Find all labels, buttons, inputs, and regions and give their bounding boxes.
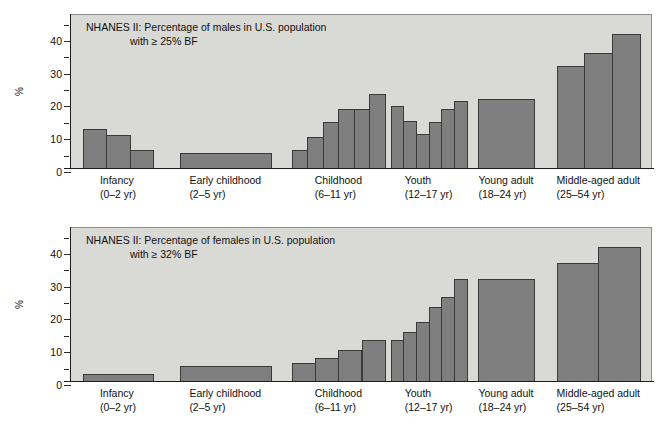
y-tick-mark: [64, 303, 69, 304]
x-axis-category-name: Young adult: [478, 387, 533, 399]
x-axis-category-range: (12–17 yr): [405, 400, 453, 414]
x-axis-category-label: Infancy(0–2 yr): [100, 386, 136, 414]
y-axis-tick-labels-bottom: 010203040: [30, 231, 62, 381]
x-axis-category-label: Early childhood(2–5 yr): [189, 386, 261, 414]
x-axis-category-label: Middle-aged adult(25–54 yr): [557, 173, 640, 201]
x-axis-labels-bottom: Infancy(0–2 yr)Early childhood(2–5 yr)Ch…: [71, 386, 652, 422]
bar: [441, 109, 455, 168]
y-axis-tick-labels-top: 010203040: [30, 18, 62, 168]
bar: [391, 340, 405, 381]
y-tick-mark: [64, 57, 69, 58]
y-tick-mark: [64, 90, 69, 91]
bar: [315, 358, 339, 381]
x-axis-category-range: (2–5 yr): [189, 187, 261, 201]
bar: [323, 122, 339, 168]
bar: [429, 307, 443, 381]
bar: [441, 297, 455, 381]
x-axis-category-name: Young adult: [478, 174, 533, 186]
x-axis-category-label: Youth(12–17 yr): [405, 386, 453, 414]
chart-title-top-line1: NHANES II: Percentage of males in U.S. p…: [86, 21, 326, 33]
bar: [292, 150, 308, 168]
x-axis-category-name: Middle-aged adult: [557, 387, 640, 399]
x-axis-category-label: Infancy(0–2 yr): [100, 173, 136, 201]
x-axis-line-top: [64, 168, 654, 169]
bar: [598, 247, 641, 381]
bar: [292, 363, 316, 381]
nhanes-body-fat-figure: % 010203040 NHANES II: Percentage of mal…: [0, 0, 670, 426]
bar: [416, 134, 430, 168]
bar: [83, 129, 108, 168]
x-axis-category-label: Young adult(18–24 yr): [478, 386, 533, 414]
x-axis-category-range: (0–2 yr): [100, 187, 136, 201]
x-axis-category-name: Early childhood: [189, 387, 261, 399]
bar: [106, 135, 131, 168]
y-tick-label: 10: [50, 346, 62, 358]
y-tick-label: 10: [50, 133, 62, 145]
x-axis-category-range: (18–24 yr): [478, 187, 533, 201]
bar: [362, 340, 386, 381]
chart-title-top-line2: with ≥ 25% BF: [86, 34, 326, 48]
y-tick-label: 0: [56, 379, 62, 391]
bar: [307, 137, 323, 168]
bar: [416, 322, 430, 381]
y-tick-mark: [64, 156, 69, 157]
bar: [612, 34, 641, 168]
bar: [83, 374, 155, 381]
x-axis-category-name: Infancy: [100, 387, 134, 399]
x-axis-category-range: (25–54 yr): [557, 187, 640, 201]
x-axis-category-range: (6–11 yr): [315, 187, 362, 201]
x-axis-category-range: (0–2 yr): [100, 400, 136, 414]
x-axis-category-range: (12–17 yr): [405, 187, 453, 201]
x-axis-category-name: Youth: [405, 174, 431, 186]
bar: [403, 121, 417, 169]
y-tick-mark: [64, 270, 69, 271]
x-axis-category-name: Childhood: [315, 387, 362, 399]
x-axis-category-label: Youth(12–17 yr): [405, 173, 453, 201]
x-axis-category-name: Middle-aged adult: [557, 174, 640, 186]
y-tick-label: 30: [50, 281, 62, 293]
chart-title-bottom-line2: with ≥ 32% BF: [86, 247, 335, 261]
chart-panel-females: % 010203040 NHANES II: Percentage of fem…: [0, 213, 670, 426]
y-tick-mark: [64, 25, 69, 26]
bar: [338, 109, 354, 168]
bar: [180, 366, 272, 381]
x-axis-category-label: Young adult(18–24 yr): [478, 173, 533, 201]
bar: [403, 332, 417, 381]
bar: [454, 279, 468, 381]
y-tick-mark: [64, 336, 69, 337]
bar: [180, 153, 272, 168]
y-tick-mark: [64, 385, 71, 386]
x-axis-category-label: Middle-aged adult(25–54 yr): [557, 386, 640, 414]
y-axis-label-top: %: [14, 87, 25, 96]
x-axis-category-label: Childhood(6–11 yr): [315, 173, 362, 201]
bar: [338, 350, 362, 381]
x-axis-category-name: Youth: [405, 387, 431, 399]
bar: [354, 109, 370, 168]
x-axis-category-label: Early childhood(2–5 yr): [189, 173, 261, 201]
y-tick-mark: [64, 238, 69, 239]
y-tick-mark: [64, 123, 69, 124]
bar: [557, 66, 586, 168]
y-tick-mark: [64, 369, 69, 370]
x-axis-category-label: Childhood(6–11 yr): [315, 386, 362, 414]
x-axis-category-name: Childhood: [315, 174, 362, 186]
bar: [478, 279, 535, 381]
x-axis-line-bottom: [64, 381, 654, 382]
bar: [454, 101, 468, 168]
y-tick-label: 40: [50, 35, 62, 47]
bar: [130, 150, 155, 168]
y-tick-label: 20: [50, 100, 62, 112]
y-tick-mark: [64, 172, 71, 173]
y-tick-label: 0: [56, 166, 62, 178]
x-axis-category-range: (18–24 yr): [478, 400, 533, 414]
x-axis-labels-top: Infancy(0–2 yr)Early childhood(2–5 yr)Ch…: [71, 173, 652, 209]
y-tick-label: 40: [50, 248, 62, 260]
x-axis-category-range: (25–54 yr): [557, 400, 640, 414]
x-axis-category-name: Early childhood: [189, 174, 261, 186]
bar: [369, 94, 385, 168]
bar: [391, 106, 405, 168]
bar: [584, 53, 613, 168]
bar: [478, 99, 535, 168]
y-tick-label: 20: [50, 313, 62, 325]
x-axis-category-range: (6–11 yr): [315, 400, 362, 414]
